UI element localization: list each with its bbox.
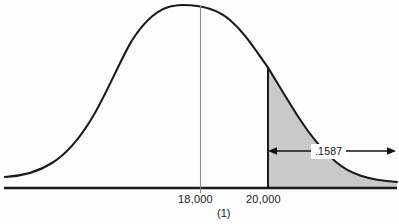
x-axis-label-mean: 18,000 <box>178 193 213 205</box>
tail-area-label: .1587 <box>311 144 346 159</box>
normal-distribution-figure: .1587 18,000 20,000 (1) <box>0 0 399 224</box>
figure-caption: (1) <box>217 207 230 219</box>
x-axis-label-cutoff: 20,000 <box>246 193 281 205</box>
distribution-chart-svg <box>0 0 399 224</box>
shaded-tail-area <box>268 68 397 188</box>
